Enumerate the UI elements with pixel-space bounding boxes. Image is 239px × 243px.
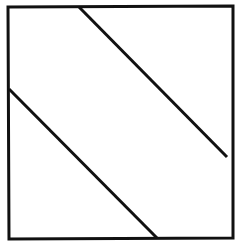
upper-diagonal-line [79,7,227,157]
lower-diagonal-line [9,89,157,238]
square-with-diagonals-diagram [0,0,239,243]
